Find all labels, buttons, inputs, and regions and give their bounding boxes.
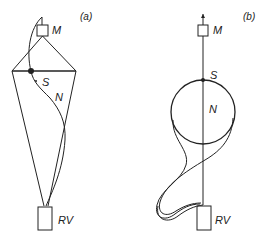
panel-b-arrow-icon	[201, 14, 205, 18]
panel-a-right-upper-line	[43, 36, 77, 71]
diagram-canvas: (a) M S N RV (b) M S N RV	[0, 0, 266, 241]
panel-b-rv-box	[197, 206, 211, 230]
panel-b-s-label: S	[210, 69, 218, 81]
panel-b-n-label: N	[209, 103, 217, 115]
panel-a-m-box	[37, 25, 48, 36]
panel-a-rv-label: RV	[58, 214, 75, 226]
panel-a-junction-dot	[28, 68, 34, 74]
panel-b: (b) M S N RV	[156, 11, 255, 230]
panel-b-label: (b)	[243, 11, 255, 22]
panel-a-rv-box	[38, 207, 52, 230]
panel-b-m-box	[198, 25, 208, 36]
panel-a-label: (a)	[80, 11, 92, 22]
panel-b-s-dot	[201, 78, 205, 82]
panel-a-s-dot	[35, 80, 37, 82]
panel-a-left-upper-line	[12, 36, 43, 71]
panel-a-left-lower-line	[12, 71, 44, 206]
panel-b-inner-loop	[159, 118, 233, 214]
panel-a-m-label: M	[52, 24, 62, 36]
panel-b-rv-label: RV	[215, 214, 232, 226]
panel-b-m-label: M	[213, 24, 223, 36]
panel-a-n-label: N	[55, 91, 63, 103]
panel-a: (a) M S N RV	[12, 11, 92, 230]
panel-a-s-label: S	[42, 76, 50, 88]
